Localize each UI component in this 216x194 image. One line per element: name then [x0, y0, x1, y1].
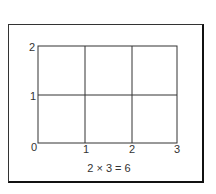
x-tick-0: 0 [31, 141, 37, 153]
x-tick-1: 1 [83, 143, 89, 155]
x-tick-2: 2 [129, 143, 135, 155]
x-tick-3: 3 [174, 143, 180, 155]
area-grid-diagram: 2 1 0 1 2 3 2 × 3 = 6 [0, 0, 216, 194]
equation-label: 2 × 3 = 6 [87, 162, 130, 174]
y-tick-2: 2 [29, 41, 35, 53]
y-tick-1: 1 [30, 90, 36, 102]
